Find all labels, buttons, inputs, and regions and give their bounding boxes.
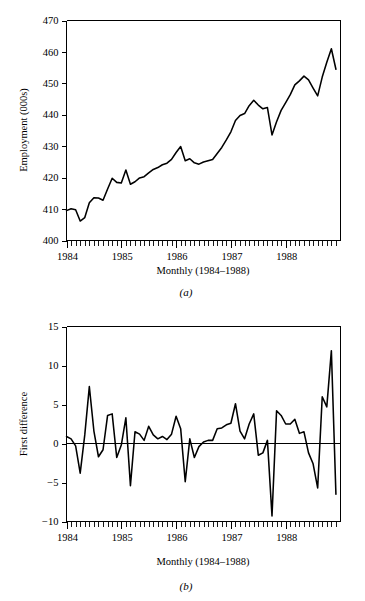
y-tick-label: 460 <box>43 47 59 58</box>
chart-a-y-ticks <box>62 21 67 241</box>
y-tick-label: 15 <box>48 321 59 332</box>
chart-panel-a: 400410420430440450460470 198419851986198… <box>0 0 365 300</box>
y-tick-label: 410 <box>43 204 59 215</box>
y-tick-label: 450 <box>43 78 59 89</box>
chart-b-caption: (b) <box>180 580 193 593</box>
x-tick-label: 1986 <box>167 532 188 543</box>
x-tick-label: 1988 <box>276 251 297 262</box>
chart-b-x-tick-labels: 19841985198619871988 <box>57 532 297 543</box>
x-tick-label: 1987 <box>221 251 242 262</box>
chart-b-x-ticks <box>67 522 336 529</box>
chart-panel-b: −10−5051015 19841985198619871988 First d… <box>0 300 365 601</box>
chart-a-svg: 400410420430440450460470 198419851986198… <box>0 0 365 300</box>
chart-a-data-line <box>67 49 336 221</box>
chart-a-y-tick-labels: 400410420430440450460470 <box>43 15 59 246</box>
chart-a-caption: (a) <box>180 286 193 299</box>
x-tick-label: 1988 <box>276 532 297 543</box>
chart-b-y-tick-labels: −10−5051015 <box>42 321 58 527</box>
y-tick-label: 470 <box>43 15 59 26</box>
chart-b-axes <box>67 327 341 522</box>
y-tick-label: −10 <box>42 516 58 527</box>
x-tick-label: 1986 <box>167 251 188 262</box>
chart-a-y-axis-title: Employment (000s) <box>18 88 30 172</box>
y-tick-label: −5 <box>47 477 58 488</box>
x-tick-label: 1985 <box>112 251 133 262</box>
chart-b-svg: −10−5051015 19841985198619871988 First d… <box>0 300 365 601</box>
chart-a-x-axis-title: Monthly (1984–1988) <box>156 265 250 277</box>
chart-b-x-axis-title: Monthly (1984–1988) <box>156 556 250 568</box>
x-tick-label: 1985 <box>112 532 133 543</box>
chart-a-x-ticks <box>67 241 336 248</box>
y-tick-label: 10 <box>48 360 59 371</box>
figure-container: 400410420430440450460470 198419851986198… <box>0 0 365 601</box>
y-tick-label: 0 <box>53 438 58 449</box>
x-tick-label: 1984 <box>57 251 79 262</box>
chart-b-y-ticks <box>62 327 67 522</box>
chart-b-data-line <box>67 351 336 516</box>
chart-a-axes <box>67 21 341 241</box>
x-tick-label: 1987 <box>221 532 242 543</box>
y-tick-label: 420 <box>43 172 59 183</box>
x-tick-label: 1984 <box>57 532 79 543</box>
y-tick-label: 430 <box>43 141 59 152</box>
chart-a-x-tick-labels: 19841985198619871988 <box>57 251 297 262</box>
y-tick-label: 400 <box>43 235 59 246</box>
y-tick-label: 5 <box>53 399 58 410</box>
y-tick-label: 440 <box>43 109 59 120</box>
chart-b-y-axis-title: First difference <box>18 392 29 457</box>
